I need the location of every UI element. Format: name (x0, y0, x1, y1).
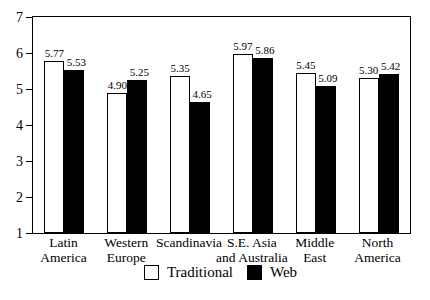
bar-value-web-scandinavia: 4.65 (192, 88, 211, 100)
bar-traditional-s-e-asia-and-australia (233, 54, 253, 233)
grouped-bar-chart: 12345675.775.534.905.255.354.655.975.865… (0, 0, 430, 300)
bar-traditional-middle-east (296, 73, 316, 233)
bar-traditional-latin-america (44, 61, 64, 233)
bar-value-web-latin-america: 5.53 (67, 56, 86, 68)
y-tick-label-3: 3 (1, 153, 23, 170)
bar-value-web-middle-east: 5.09 (318, 72, 337, 84)
bar-web-latin-america (64, 70, 84, 233)
legend: TraditionalWeb (32, 264, 409, 281)
bar-traditional-scandinavia (170, 76, 190, 233)
y-tick-label-4: 4 (1, 117, 23, 134)
y-tick-3 (26, 161, 33, 162)
legend-swatch-web (247, 265, 262, 280)
x-axis-labels: Latin AmericaWestern EuropeScandinaviaS.… (32, 235, 409, 267)
bar-traditional-north-america (359, 78, 379, 233)
legend-item-web: Web (247, 264, 297, 281)
bar-web-s-e-asia-and-australia (253, 58, 273, 233)
bar-value-traditional-north-america: 5.30 (359, 64, 378, 76)
legend-item-traditional: Traditional (144, 264, 233, 281)
plot-area: 12345675.775.534.905.255.354.655.975.865… (32, 16, 411, 234)
legend-label-traditional: Traditional (167, 264, 233, 281)
y-tick-label-6: 6 (1, 45, 23, 62)
bar-value-web-western-europe: 5.25 (130, 66, 149, 78)
bar-web-western-europe (127, 80, 147, 233)
y-tick-1 (26, 233, 33, 234)
bar-value-web-s-e-asia-and-australia: 5.86 (255, 44, 274, 56)
x-label-north-america: North America (330, 235, 426, 265)
bar-value-traditional-s-e-asia-and-australia: 5.97 (233, 40, 252, 52)
bar-value-traditional-western-europe: 4.90 (108, 79, 127, 91)
y-tick-4 (26, 125, 33, 126)
y-tick-5 (26, 89, 33, 90)
legend-label-web: Web (270, 264, 297, 281)
y-tick-2 (26, 197, 33, 198)
bar-value-web-north-america: 5.42 (381, 60, 400, 72)
y-tick-label-5: 5 (1, 81, 23, 98)
y-tick-7 (26, 17, 33, 18)
bar-value-traditional-scandinavia: 5.35 (170, 62, 189, 74)
bar-web-middle-east (316, 86, 336, 233)
y-tick-6 (26, 53, 33, 54)
bar-web-north-america (379, 74, 399, 233)
legend-swatch-traditional (144, 265, 159, 280)
y-tick-label-7: 7 (1, 9, 23, 26)
bar-value-traditional-latin-america: 5.77 (45, 47, 64, 59)
bar-traditional-western-europe (107, 93, 127, 233)
bar-web-scandinavia (190, 102, 210, 233)
bar-value-traditional-middle-east: 5.45 (296, 59, 315, 71)
y-tick-label-2: 2 (1, 189, 23, 206)
